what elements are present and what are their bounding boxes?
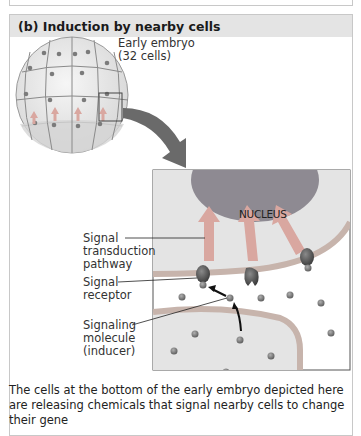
inset-diagram [153,138,350,376]
caption-text: The cells at the bottom of the early emb… [9,383,355,428]
signaling-molecule-label: Signaling molecule (inducer) [83,319,136,358]
signal-transduction-label: Signal transduction pathway [83,232,156,271]
label-line: pathway [83,258,156,271]
magnify-arrow [123,108,186,168]
nucleus-label: NUCLEUS [239,208,287,220]
label-line: receptor [83,289,132,302]
label-line: (inducer) [83,345,136,358]
embryo-label: Early embryo (32 cells) [118,37,195,63]
embryo-label-line2: (32 cells) [118,50,195,63]
embryo-sphere [16,37,128,153]
signal-receptor-label: Signal receptor [83,276,132,302]
